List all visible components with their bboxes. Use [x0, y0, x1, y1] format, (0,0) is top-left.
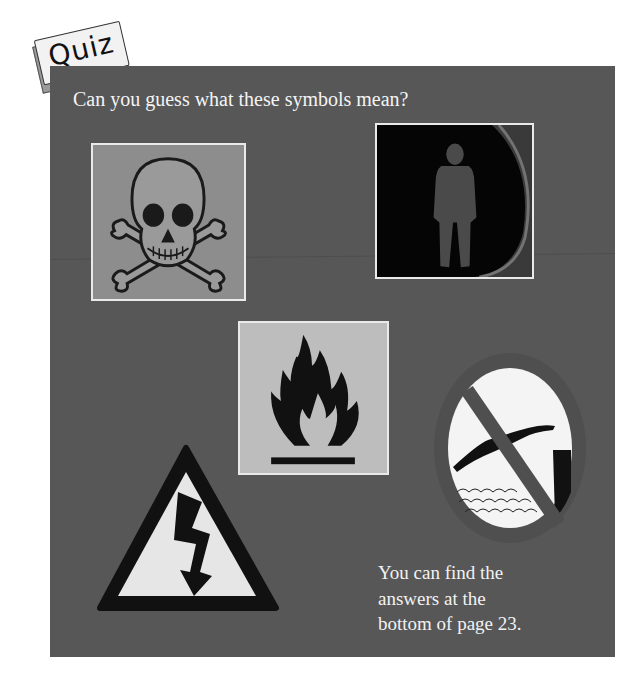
- answer-line-3: bottom of page 23.: [378, 611, 522, 637]
- high-voltage-sign: [96, 444, 280, 614]
- answer-note: You can find the answers at the bottom o…: [378, 560, 522, 637]
- skull-crossbones-icon: [93, 145, 244, 299]
- standing-person-icon: [377, 125, 532, 277]
- no-diving-icon: [433, 352, 588, 544]
- skull-photo: [91, 143, 246, 301]
- no-diving-sign: [433, 352, 588, 544]
- quiz-question: Can you guess what these symbols mean?: [73, 88, 409, 111]
- pedestrian-signal-photo: [375, 123, 534, 279]
- answer-line-1: You can find the: [378, 560, 522, 586]
- answer-line-2: answers at the: [378, 586, 522, 612]
- high-voltage-icon: [96, 444, 280, 614]
